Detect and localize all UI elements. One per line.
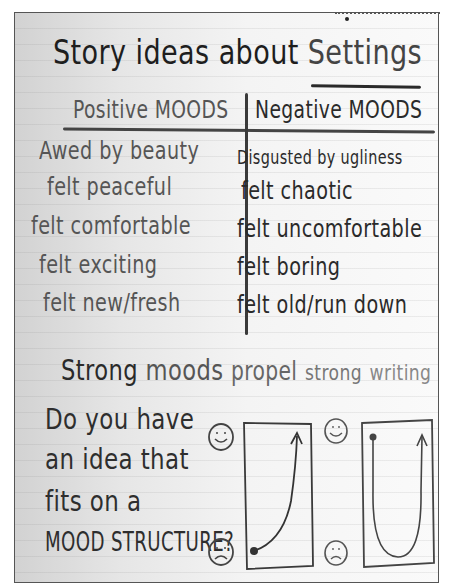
negative-item: felt old/run down: [237, 291, 407, 319]
tagline-word: writing: [370, 360, 432, 385]
title-prefix: Story ideas about: [53, 33, 308, 72]
question-line: an idea that: [45, 443, 189, 476]
negative-moods-header: Negative MOODS: [255, 96, 422, 124]
positive-item: felt comfortable: [31, 212, 191, 240]
title-emphasis: Settings: [308, 33, 422, 72]
tagline-word: strong: [305, 360, 362, 385]
header-rule: [63, 127, 435, 133]
question-line: fits on a: [45, 485, 141, 518]
negative-item: Disgusted by ugliness: [237, 145, 403, 169]
tagline-word: moods: [145, 353, 223, 387]
positive-item: Awed by beauty: [39, 137, 199, 165]
sad-face-icon: [209, 539, 233, 565]
tagline-word: Strong: [61, 353, 138, 387]
happy-face-icon: [325, 419, 347, 443]
negative-item: felt uncomfortable: [237, 215, 422, 243]
perforated-edge: [335, 12, 440, 14]
positive-item: felt peaceful: [47, 173, 172, 201]
title-underline: [311, 84, 421, 89]
negative-item: felt boring: [237, 253, 340, 281]
question-line: Do you have: [45, 403, 194, 436]
positive-item: felt exciting: [39, 251, 157, 279]
chart-paper: Story ideas about Settings Positive MOOD…: [14, 12, 439, 583]
tagline-word: propel: [231, 356, 298, 386]
tagline: Strong moods propel strong writing: [61, 353, 431, 387]
positive-item: felt new/fresh: [43, 289, 181, 317]
chart-title: Story ideas about Settings: [53, 33, 422, 72]
mood-diagram-rising: [205, 411, 325, 581]
ink-dot: [345, 17, 349, 21]
sad-face-icon: [325, 541, 347, 565]
mood-diagram-u-shape: [320, 411, 440, 581]
happy-face-icon: [209, 424, 233, 450]
negative-item: felt chaotic: [241, 177, 353, 205]
positive-moods-header: Positive MOODS: [73, 96, 229, 124]
